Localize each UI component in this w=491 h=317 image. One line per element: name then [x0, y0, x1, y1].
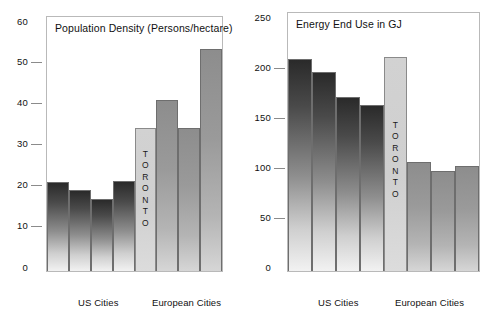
y-tick-50: 50 — [2, 56, 42, 68]
y-tick-0: 0 — [2, 262, 42, 274]
y-tick-200: 200 — [245, 62, 285, 74]
category-label-european-cities: European Cities — [152, 297, 221, 308]
tick-mark-icon — [274, 118, 285, 119]
y-tick-250: 250 — [245, 12, 285, 24]
tick-mark-icon — [274, 268, 285, 269]
population-density-chart: 60 50 40 30 20 10 — [0, 0, 245, 317]
toronto-vertical-label: T O R O N T O — [136, 149, 156, 230]
chart-pair-container: 60 50 40 30 20 10 — [0, 0, 491, 317]
bar-us-3[interactable] — [91, 199, 113, 271]
y-tick-100: 100 — [245, 162, 285, 174]
tick-mark-icon — [274, 18, 285, 19]
bar-us-4[interactable] — [360, 105, 384, 271]
tick-mark-icon — [31, 185, 42, 186]
left-category-labels: US Cities European Cities — [0, 297, 245, 311]
category-label-us-cities: US Cities — [318, 297, 359, 308]
y-tick-150: 150 — [245, 112, 285, 124]
y-tick-10: 10 — [2, 220, 42, 232]
energy-end-use-chart: 250 200 150 100 50 0 — [245, 0, 490, 317]
bar-us-2[interactable] — [69, 190, 91, 271]
bar-eu-2[interactable] — [431, 171, 455, 271]
y-tick-40: 40 — [2, 97, 42, 109]
right-plot-area: Energy End Use in GJ T O R O N T O — [287, 12, 480, 272]
y-tick-20: 20 — [2, 179, 42, 191]
tick-mark-icon — [274, 218, 285, 219]
tick-mark-icon — [31, 144, 42, 145]
bar-us-4[interactable] — [113, 181, 135, 271]
bar-toronto[interactable]: T O R O N T O — [384, 57, 408, 271]
bar-eu-1[interactable] — [156, 100, 178, 271]
left-plot-area: Population Density (Persons/hectare) T O… — [46, 16, 223, 272]
y-tick-0: 0 — [245, 262, 285, 274]
left-bar-series: T O R O N T O — [47, 17, 222, 271]
right-category-labels: US Cities European Cities — [245, 297, 490, 311]
bar-us-1[interactable] — [47, 182, 69, 271]
y-tick-30: 30 — [2, 138, 42, 150]
tick-mark-icon — [31, 103, 42, 104]
y-tick-50: 50 — [245, 212, 285, 224]
tick-mark-icon — [31, 62, 42, 63]
tick-mark-icon — [274, 68, 285, 69]
bar-eu-3[interactable] — [200, 49, 222, 271]
toronto-vertical-label: T O R O N T O — [385, 120, 407, 201]
bar-eu-1[interactable] — [407, 162, 431, 271]
bar-us-1[interactable] — [288, 59, 312, 271]
bar-toronto[interactable]: T O R O N T O — [135, 128, 157, 271]
bar-us-3[interactable] — [336, 97, 360, 271]
bar-eu-2[interactable] — [178, 128, 200, 272]
category-label-us-cities: US Cities — [78, 297, 119, 308]
tick-mark-icon — [31, 226, 42, 227]
tick-mark-icon — [31, 268, 42, 269]
y-tick-60: 60 — [2, 16, 42, 28]
category-label-european-cities: European Cities — [395, 297, 464, 308]
tick-mark-icon — [274, 168, 285, 169]
tick-mark-icon — [31, 22, 42, 23]
bar-eu-3[interactable] — [455, 166, 479, 271]
right-bar-series: T O R O N T O — [288, 13, 479, 271]
bar-us-2[interactable] — [312, 72, 336, 271]
